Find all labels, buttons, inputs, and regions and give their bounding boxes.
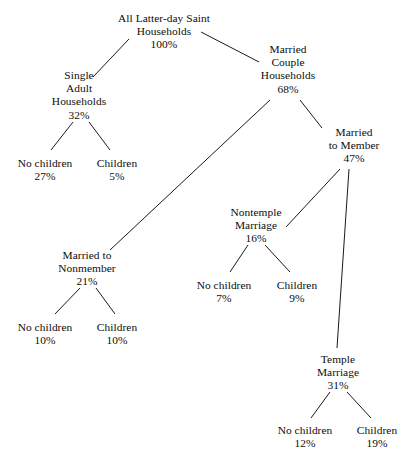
node-label: Children [277,279,317,292]
node-label: Adult [52,82,106,95]
node-label: No children [278,424,333,437]
node-percentage: 9% [277,292,317,305]
node-percentage: 47% [329,152,380,165]
node-percentage: 27% [18,170,73,183]
node-label: No children [18,321,73,334]
node-percentage: 19% [357,437,397,450]
node-label: No children [18,157,73,170]
node-percentage: 12% [278,437,333,450]
node-label: Married to [58,249,115,262]
node-label: Marriage [230,219,281,232]
node-label: Temple [317,353,359,366]
node-label: Households [261,69,315,82]
tree-node-temple-children: Children19% [357,424,397,450]
node-label: All Latter-day Saint [118,12,210,25]
tree-node-married-to-nonmember: Married toNonmember21% [58,249,115,289]
node-label: Nontemple [230,206,281,219]
tree-node-temple-no-children: No children12% [278,424,333,450]
node-percentage: 100% [118,38,210,51]
node-label: to Member [329,139,380,152]
node-label: Nonmember [58,262,115,275]
tree-edge-nonmember-to-no-children [55,288,80,314]
tree-edge-nonmember-to-children [96,288,115,314]
tree-edge-temple-to-no-children [311,392,330,418]
node-percentage: 16% [230,232,281,245]
tree-node-nontemple-children: Children9% [277,279,317,305]
node-percentage: 10% [97,334,137,347]
node-label: Children [97,157,137,170]
tree-edge-single-adult-to-children [89,122,110,150]
node-label: Married [261,43,315,56]
node-percentage: 5% [97,170,137,183]
node-percentage: 10% [18,334,73,347]
node-percentage: 7% [197,292,252,305]
tree-node-nontemple-no-children: No children7% [197,279,252,305]
tree-node-nonmember-no-children: No children10% [18,321,73,347]
node-percentage: 68% [261,83,315,96]
tree-edge-nontemple-to-no-children [230,245,248,272]
tree-edge-married-couple-to-member [300,100,322,128]
tree-node-single-adult: SingleAdultHouseholds32% [52,69,106,122]
tree-node-nonmember-children: Children10% [97,321,137,347]
tree-node-married-couple: MarriedCoupleHouseholds68% [261,43,315,96]
node-label: Marriage [317,366,359,379]
node-label: Couple [261,56,315,69]
tree-node-root: All Latter-day SaintHouseholds100% [118,12,210,52]
tree-edge-temple-to-children [347,392,371,418]
node-label: No children [197,279,252,292]
node-percentage: 31% [317,379,359,392]
node-percentage: 21% [58,275,115,288]
tree-node-temple-marriage: TempleMarriage31% [317,353,359,393]
node-percentage: 32% [52,109,106,122]
node-label: Children [357,424,397,437]
tree-node-nontemple-marriage: NontempleMarriage16% [230,206,281,246]
tree-diagram: All Latter-day SaintHouseholds100%Single… [0,0,402,454]
tree-edge-member-to-nontemple [286,169,340,227]
node-label: Married [329,126,380,139]
node-label: Households [118,25,210,38]
tree-edge-member-to-temple [337,169,349,348]
tree-node-married-to-member: Marriedto Member47% [329,126,380,166]
node-label: Households [52,95,106,108]
tree-edge-nontemple-to-children [265,245,290,272]
tree-node-single-children: Children5% [97,157,137,183]
node-label: Children [97,321,137,334]
node-label: Single [52,69,106,82]
tree-edge-single-adult-to-no-children [51,122,73,150]
tree-node-single-no-children: No children27% [18,157,73,183]
